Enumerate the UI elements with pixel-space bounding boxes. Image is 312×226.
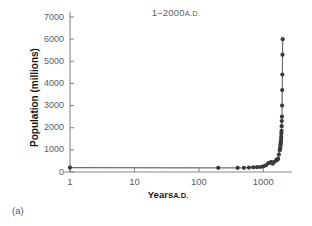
data-point xyxy=(276,157,280,161)
data-point xyxy=(279,129,283,133)
axis-ticks xyxy=(70,17,263,172)
population-figure: 1–2000A.D. Population (millions) 0100020… xyxy=(0,0,312,226)
data-point xyxy=(251,165,255,169)
data-point xyxy=(280,124,284,128)
data-point xyxy=(247,165,251,169)
data-point xyxy=(280,103,284,107)
data-point xyxy=(277,152,281,156)
data-point xyxy=(280,72,284,76)
data-series xyxy=(68,37,285,170)
data-point xyxy=(216,166,220,170)
data-point xyxy=(280,119,284,123)
data-point xyxy=(242,166,246,170)
data-point xyxy=(280,88,284,92)
plot-area xyxy=(0,0,312,226)
axis-lines xyxy=(64,12,292,172)
data-point xyxy=(68,165,72,169)
data-point xyxy=(280,53,284,57)
data-point xyxy=(280,115,284,119)
data-point xyxy=(236,166,240,170)
data-point xyxy=(281,37,285,41)
panel-caption: (a) xyxy=(12,205,24,216)
series-line xyxy=(70,39,283,168)
